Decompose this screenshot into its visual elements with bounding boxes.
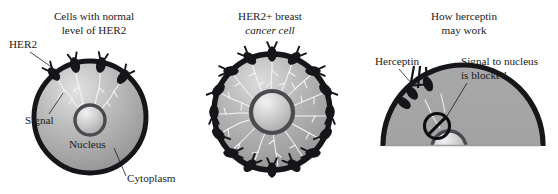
label-her2: HER2 [9, 38, 37, 50]
panel2-title-line2: cancer cell [245, 24, 294, 36]
panel3-title-line1: How herceptin [431, 10, 498, 22]
label-nucleus: Nucleus [69, 138, 106, 150]
herceptin-bar-3 [426, 67, 427, 86]
panel2-title-line1: HER2+ breast [238, 10, 303, 22]
panel3-title-line2: may work [441, 24, 486, 36]
label-herceptin: Herceptin [375, 55, 420, 67]
her2-herceptin-diagram: Cells with normal level of HER2 [0, 0, 558, 194]
panel-title-line1: Cells with normal [54, 10, 134, 22]
figure-root: Cells with normal level of HER2 [0, 0, 558, 194]
label-signal: Signal [25, 114, 54, 126]
label-blocked-line2: is blocked [461, 69, 507, 81]
panel-title-line2: level of HER2 [62, 24, 127, 36]
label-cytoplasm: Cytoplasm [127, 172, 176, 184]
label-blocked-line1: Signal to nucleus [461, 55, 538, 67]
